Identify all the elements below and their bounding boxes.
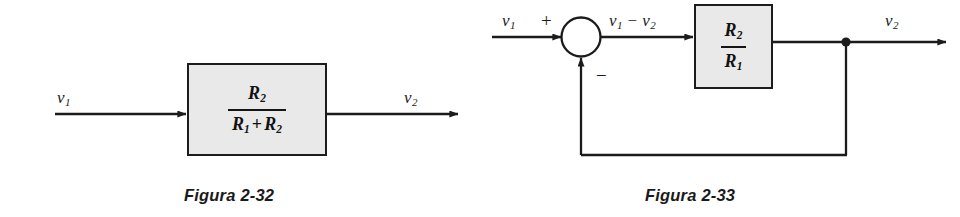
caption-figura-2-32: Figura 2-32 xyxy=(184,186,274,205)
transfer-function-expression-2-32: R2 R1+R2 xyxy=(228,83,286,137)
plus-sign-2-33: + xyxy=(541,11,552,30)
fraction-bar-2-33 xyxy=(721,46,747,48)
input-label-2-33: v1 xyxy=(502,12,516,31)
input-label-2-32: v1 xyxy=(57,89,71,108)
output-label-2-32: v2 xyxy=(404,89,418,108)
diagram-vector-layer xyxy=(0,0,960,217)
fraction-denominator-2-33: R1 xyxy=(721,50,747,74)
summing-junction-circle xyxy=(562,18,601,57)
fraction-numerator-2-33: R2 xyxy=(721,20,747,44)
caption-figura-2-33: Figura 2-33 xyxy=(645,186,735,205)
fraction-bar-2-32 xyxy=(228,109,286,111)
output-label-2-33: v2 xyxy=(885,12,899,31)
fraction-denominator-2-32: R1+R2 xyxy=(228,113,286,137)
figure-sheet: v1 R2 R1+R2 v2 Figura 2-32 v1 + − v1−v2 xyxy=(0,0,960,217)
transfer-function-block-2-32[interactable]: R2 R1+R2 xyxy=(187,63,327,156)
transfer-function-block-2-33[interactable]: R2 R1 xyxy=(694,4,773,89)
fraction-numerator-2-32: R2 xyxy=(228,83,286,107)
minus-sign-2-33: − xyxy=(596,66,607,85)
error-signal-label-2-33: v1−v2 xyxy=(609,12,656,31)
transfer-function-expression-2-33: R2 R1 xyxy=(721,20,747,74)
